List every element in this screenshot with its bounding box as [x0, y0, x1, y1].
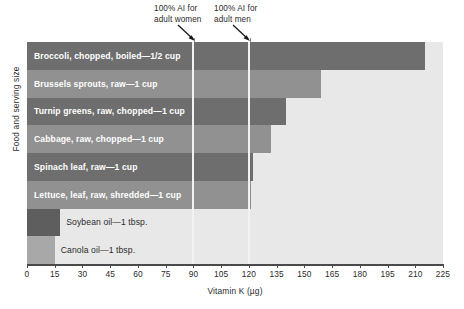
- reference-line-men-extension: [250, 38, 251, 42]
- x-axis-tick-label: 105: [214, 269, 228, 279]
- x-axis-tick-label: 225: [436, 269, 450, 279]
- bar-row: Broccoli, chopped, boiled—1/2 cup: [27, 42, 443, 70]
- reference-annotation-women-line1: 100% AI for: [154, 4, 202, 15]
- x-axis-tick-label: 75: [161, 269, 171, 279]
- x-axis-tick-label: 150: [297, 269, 311, 279]
- bar: [27, 236, 55, 264]
- x-axis-tick-label: 45: [105, 269, 115, 279]
- bar-label: Brussels sprouts, raw—1 cup: [34, 70, 158, 98]
- bar-row: Canola oil—1 tbsp.: [27, 236, 443, 264]
- vitamin-k-bar-chart: 100% AI for adult women 100% AI for adul…: [0, 0, 464, 309]
- bar-label: Lettuce, leaf, raw, shredded—1 cup: [34, 181, 181, 209]
- x-axis-tick-label: 135: [269, 269, 283, 279]
- x-axis-tick: [443, 264, 444, 268]
- x-axis-tick: [193, 264, 194, 268]
- x-axis-tick: [166, 264, 167, 268]
- bar-row: Spinach leaf, raw—1 cup: [27, 153, 443, 181]
- x-axis-tick-label: 90: [189, 269, 199, 279]
- x-axis-tick: [415, 264, 416, 268]
- x-axis-tick: [249, 264, 250, 268]
- bar-row: Cabbage, raw, chopped—1 cup: [27, 125, 443, 153]
- x-axis-tick-label: 120: [242, 269, 256, 279]
- x-axis-line: [27, 264, 443, 266]
- x-axis-tick-label: 60: [133, 269, 143, 279]
- bar-label: Cabbage, raw, chopped—1 cup: [34, 125, 164, 153]
- x-axis-tick-label: 180: [353, 269, 367, 279]
- bar-row: Lettuce, leaf, raw, shredded—1 cup: [27, 181, 443, 209]
- reference-line: [192, 42, 194, 264]
- x-axis-tick-label: 165: [325, 269, 339, 279]
- reference-annotation-men: 100% AI for adult men: [214, 4, 257, 25]
- bar-label: Spinach leaf, raw—1 cup: [34, 153, 138, 181]
- x-axis-tick: [55, 264, 56, 268]
- plot-area: Broccoli, chopped, boiled—1/2 cupBrussel…: [27, 42, 443, 264]
- reference-annotation-men-line1: 100% AI for: [214, 4, 257, 15]
- x-axis-tick-label: 15: [50, 269, 60, 279]
- x-axis-title: Vitamin K (µg): [27, 286, 443, 296]
- x-axis-tick: [332, 264, 333, 268]
- x-axis-tick: [27, 264, 28, 268]
- x-axis-tick: [82, 264, 83, 268]
- x-axis-tick-label: 195: [380, 269, 394, 279]
- bar-label: Soybean oil—1 tbsp.: [66, 209, 147, 237]
- reference-line-women-extension: [194, 38, 195, 42]
- x-axis-tick-label: 30: [78, 269, 88, 279]
- x-axis-tick: [110, 264, 111, 268]
- bar-label: Turnip greens, raw, chopped—1 cup: [34, 98, 185, 126]
- reference-line: [248, 42, 250, 264]
- bar: [27, 209, 60, 237]
- bar-row: Turnip greens, raw, chopped—1 cup: [27, 98, 443, 126]
- bar-label: Broccoli, chopped, boiled—1/2 cup: [34, 42, 181, 70]
- x-axis-tick: [304, 264, 305, 268]
- x-axis-tick: [360, 264, 361, 268]
- x-axis-tick: [388, 264, 389, 268]
- x-axis-tick: [277, 264, 278, 268]
- y-axis-title: Food and serving size: [11, 49, 21, 169]
- x-axis-tick-label: 0: [25, 269, 30, 279]
- reference-annotation-women: 100% AI for adult women: [154, 4, 202, 25]
- x-axis-tick-label: 210: [408, 269, 422, 279]
- bar-row: Brussels sprouts, raw—1 cup: [27, 70, 443, 98]
- x-axis-tick: [138, 264, 139, 268]
- bar-label: Canola oil—1 tbsp.: [61, 236, 135, 264]
- x-axis-tick: [221, 264, 222, 268]
- bar-row: Soybean oil—1 tbsp.: [27, 209, 443, 237]
